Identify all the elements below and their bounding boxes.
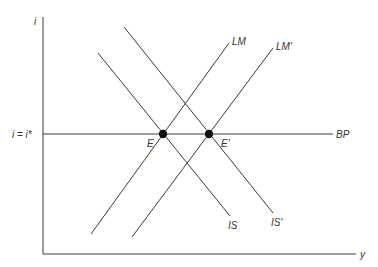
lm-label: LM bbox=[232, 36, 247, 47]
bp-label: BP bbox=[336, 129, 350, 140]
equilibrium-point-e bbox=[159, 130, 167, 138]
x-axis-label: y bbox=[359, 249, 366, 260]
is-label: IS bbox=[228, 220, 238, 231]
equilibrium-point-e-prime bbox=[205, 130, 213, 138]
is-prime-label: IS' bbox=[271, 217, 283, 228]
y-axis-label: i bbox=[34, 16, 37, 27]
point-e-prime-label: E' bbox=[221, 138, 231, 149]
diagram-canvas: i y i = i* BP IS IS' LM LM' E E' bbox=[0, 0, 378, 267]
point-e-label: E bbox=[147, 138, 154, 149]
y-tick-label: i = i* bbox=[12, 129, 33, 140]
is-prime-curve bbox=[124, 27, 273, 213]
lm-prime-label: LM' bbox=[276, 41, 293, 52]
is-lm-bp-diagram: i y i = i* BP IS IS' LM LM' E E' bbox=[0, 0, 378, 267]
